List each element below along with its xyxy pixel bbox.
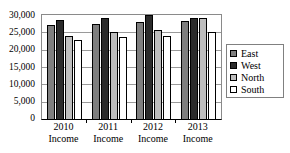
- bar-west-2011: [101, 18, 109, 119]
- legend-label-south: South: [241, 84, 264, 95]
- bar-east-2013: [181, 21, 189, 119]
- bar-group-2011: [87, 15, 132, 119]
- legend-label-east: East: [241, 48, 258, 59]
- bar-north-2010: [65, 36, 73, 119]
- x-axis-label-line2: Income: [41, 133, 86, 145]
- legend-swatch-south-icon: [230, 86, 237, 93]
- bars-layer: [42, 15, 221, 119]
- x-axis-label-2011: 2011 Income: [86, 121, 131, 145]
- bar-south-2013: [208, 32, 216, 119]
- bar-group-2013: [176, 15, 221, 119]
- bar-west-2010: [56, 20, 64, 119]
- legend-item-south: South: [230, 83, 281, 95]
- y-axis-tick-label: 20,000: [9, 44, 35, 54]
- x-axis-label-line2: Income: [131, 133, 176, 145]
- x-axis-label-line2: Income: [175, 133, 220, 145]
- legend-label-north: North: [241, 72, 264, 83]
- x-axis-label-line1: 2013: [175, 121, 220, 133]
- bar-south-2010: [74, 40, 82, 119]
- bar-north-2013: [199, 18, 207, 119]
- x-axis-label-2010: 2010 Income: [41, 121, 86, 145]
- bar-north-2012: [154, 30, 162, 119]
- x-axis-label-line1: 2010: [41, 121, 86, 133]
- bar-south-2012: [163, 36, 171, 119]
- y-axis-tick-label: 5,000: [14, 96, 35, 106]
- legend: East West North South: [226, 44, 284, 98]
- legend-swatch-north-icon: [230, 74, 237, 81]
- legend-swatch-east-icon: [230, 50, 237, 57]
- y-axis-tick-label: 25,000: [9, 27, 35, 37]
- legend-item-west: West: [230, 59, 281, 71]
- x-axis-label-2013: 2013 Income: [175, 121, 220, 145]
- legend-item-east: East: [230, 47, 281, 59]
- x-axis-label-line1: 2011: [86, 121, 131, 133]
- y-axis-tick-label: 0: [30, 113, 35, 123]
- legend-label-west: West: [241, 60, 261, 71]
- plot-area: [41, 14, 222, 120]
- y-axis: 30,000 25,000 20,000 15,000 10,000 5,000…: [0, 0, 38, 153]
- bar-east-2010: [47, 25, 55, 119]
- bar-north-2011: [110, 32, 118, 119]
- x-axis-label-line1: 2012: [131, 121, 176, 133]
- legend-swatch-west-icon: [230, 62, 237, 69]
- legend-item-north: North: [230, 71, 281, 83]
- x-axis-label-line2: Income: [86, 133, 131, 145]
- y-axis-tick-label: 10,000: [9, 79, 35, 89]
- y-axis-tick-label: 30,000: [9, 10, 35, 20]
- bar-group-2012: [132, 15, 177, 119]
- y-axis-tick-label: 15,000: [9, 62, 35, 72]
- bar-east-2011: [92, 24, 100, 119]
- bar-east-2012: [136, 22, 144, 119]
- x-axis: 2010 Income 2011 Income 2012 Income 2013…: [41, 121, 220, 145]
- bar-group-2010: [42, 15, 87, 119]
- bar-west-2012: [145, 15, 153, 119]
- bar-south-2011: [119, 37, 127, 119]
- x-axis-label-2012: 2012 Income: [131, 121, 176, 145]
- bar-chart: 30,000 25,000 20,000 15,000 10,000 5,000…: [0, 0, 290, 153]
- bar-west-2013: [190, 18, 198, 119]
